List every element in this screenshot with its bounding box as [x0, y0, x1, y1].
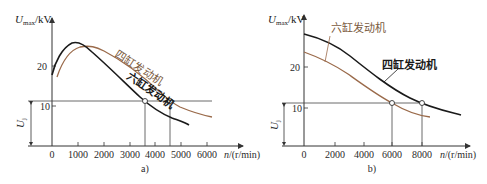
- svg-text:3000: 3000: [120, 149, 140, 160]
- svg-text:6000: 6000: [382, 149, 402, 160]
- x-axis-label-a: n/(r/min): [224, 149, 260, 161]
- x-tick-labels-b: 0 2000 4000 6000 8000: [302, 149, 433, 160]
- svg-text:6000: 6000: [197, 149, 217, 160]
- label-six-cylinder-b: 六缸发动机: [331, 21, 386, 35]
- svg-text:0: 0: [302, 149, 307, 160]
- x-axis-label-b: n/(r/min): [440, 149, 476, 161]
- x-tick-labels-a: 0 1000 2000 3000 4000 5000 6000: [50, 149, 218, 160]
- figure: 四缸发动机 六缸发动机 Umax/kV 20 10 Uj 0 1000 2000…: [0, 0, 487, 184]
- svg-text:2000: 2000: [94, 149, 114, 160]
- svg-text:8000: 8000: [412, 149, 432, 160]
- y-tick-label-10-b: 10: [292, 103, 302, 114]
- y-axis-label-a: Umax/kV: [15, 13, 52, 27]
- uj-label-a: Uj: [14, 118, 28, 128]
- svg-text:2000: 2000: [325, 149, 345, 160]
- x-ticks-a: [78, 142, 207, 146]
- intersection-marker-six-a: [143, 99, 148, 104]
- svg-text:0: 0: [50, 149, 55, 160]
- y-tick-label-20-b: 20: [290, 62, 300, 73]
- svg-text:5000: 5000: [171, 149, 191, 160]
- intersection-marker-six-b: [390, 101, 395, 106]
- y-tick-label-20-a: 20: [37, 61, 47, 72]
- svg-text:1000: 1000: [68, 149, 88, 160]
- label-four-cylinder-b: 四缸发动机: [382, 58, 437, 72]
- y-tick-label-10-a: 10: [40, 101, 50, 112]
- leader-six-b: [325, 36, 330, 62]
- intersection-marker-four-b: [420, 101, 425, 106]
- svg-text:4000: 4000: [354, 149, 374, 160]
- svg-text:4000: 4000: [145, 149, 165, 160]
- chart-b: 六缸发动机 四缸发动机 Umax/kV 20 10 Uj 0 2000 4000…: [268, 13, 476, 175]
- y-axis-label-b: Umax/kV: [268, 13, 305, 27]
- caption-b: b): [368, 163, 376, 175]
- chart-a: 四缸发动机 六缸发动机 Umax/kV 20 10 Uj 0 1000 2000…: [14, 13, 260, 175]
- uj-label-b: Uj: [268, 120, 282, 130]
- caption-a: a): [141, 163, 149, 175]
- x-ticks-b: [335, 142, 422, 146]
